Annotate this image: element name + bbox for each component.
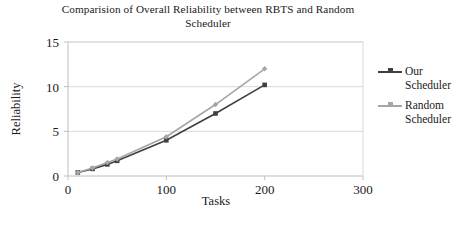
x-tick-label: 100 — [157, 182, 177, 197]
data-point-marker — [213, 111, 218, 116]
legend-marker — [388, 68, 393, 73]
grid-lines — [68, 42, 363, 131]
data-point-marker — [262, 83, 267, 88]
y-tick-labels: 051015 — [46, 35, 59, 184]
x-axis-title: Tasks — [202, 194, 230, 208]
legend-marker — [388, 102, 393, 107]
x-axis-ticks — [68, 176, 363, 180]
series-line — [78, 85, 265, 173]
x-tick-label: 200 — [255, 182, 275, 197]
x-tick-label: 0 — [65, 182, 72, 197]
data-series — [75, 66, 267, 175]
y-axis-ticks — [64, 42, 68, 176]
series-line — [78, 69, 265, 173]
x-tick-label: 300 — [353, 182, 373, 197]
y-tick-label: 0 — [53, 169, 60, 184]
y-axis-title: Reliability — [9, 82, 23, 136]
y-tick-label: 15 — [46, 35, 59, 50]
y-tick-label: 5 — [53, 124, 60, 139]
legend-label-our-scheduler: Our Scheduler — [405, 65, 475, 92]
y-tick-label: 10 — [46, 80, 59, 95]
legend-label-random-scheduler: Random Scheduler — [405, 99, 475, 126]
axis-lines — [68, 42, 363, 176]
chart-container: Comparision of Overall Reliability betwe… — [0, 0, 476, 225]
